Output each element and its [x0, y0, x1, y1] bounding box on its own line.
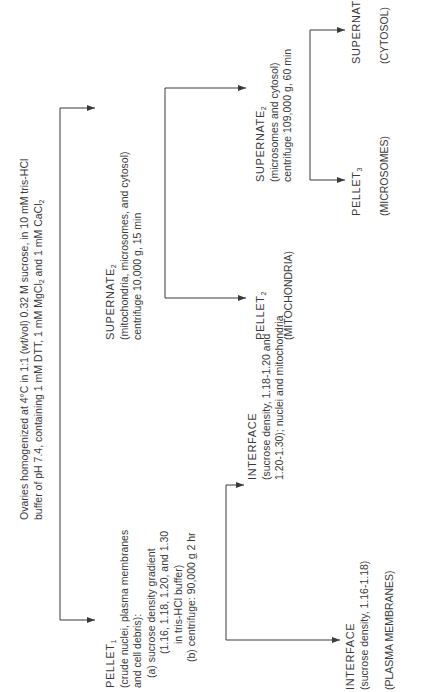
pellet1-step-a-3: in tris-HCl buffer)	[172, 530, 186, 688]
interface-lower-result: (PLASMA MEMBRANES)	[383, 561, 397, 690]
interface-lower-block: INTERFACE (sucrose density, 1.16-1.18) (…	[344, 561, 397, 690]
supernate3-result: (CYTOSOL)	[378, 0, 392, 64]
supernate2b-block: SUPERNATE2 (microsomes and cytosol) cent…	[254, 49, 295, 182]
pellet1-step-b: (b) centrifuge: 90,000 g 2 hr	[185, 530, 199, 688]
pellet1-label: PELLET1	[104, 530, 118, 688]
supernate2-block: SUPERNATE2 (mitochondria, microsomes, an…	[104, 152, 145, 340]
title-line-1: Ovaries homogenized at 4°C in 1:1 (wt/vo…	[18, 159, 32, 520]
homogenization-title: Ovaries homogenized at 4°C in 1:1 (wt/vo…	[18, 159, 45, 520]
interface-upper-desc-1: (sucrose density, 1.18-1.20 and	[260, 315, 274, 480]
title-line-2: buffer of pH 7.4, containing 1 mM DTT, 1…	[32, 159, 46, 520]
pellet3-block: PELLET3 (MICROSOMES)	[350, 136, 391, 216]
supernate2b-desc-2: centrifuge 109,000 g, 60 min	[281, 49, 295, 182]
supernate2-desc-1: (mitochondria, microsomes, and cytosol)	[118, 152, 132, 340]
pellet1-desc-2: and cell debris):	[131, 530, 145, 688]
supernate3-block: SUPERNATE3 (CYTOSOL)	[350, 0, 391, 64]
pellet1-step-a: (a) sucrose density gradient	[145, 530, 159, 688]
pellet1-desc-1: (crude nuclei, plasma membranes	[118, 530, 132, 688]
interface-upper-block: INTERFACE (sucrose density, 1.18-1.20 an…	[246, 315, 287, 480]
supernate2b-desc-1: (microsomes and cytosol)	[268, 49, 282, 182]
interface-upper-desc-2: 1.20-1.30); nuclei and mitochondria	[273, 315, 287, 480]
supernate3-label: SUPERNATE3	[350, 0, 364, 64]
supernate2-desc-2: centrifuge 10,000 g, 15 min	[131, 152, 145, 340]
interface-upper-label: INTERFACE	[246, 315, 260, 480]
pellet3-result: (MICROSOMES)	[378, 136, 392, 216]
supernate2b-label: SUPERNATE2	[254, 49, 268, 182]
pellet1-step-a-2: (1.16, 1.18, 1.20, and 1.30	[158, 530, 172, 688]
fractionation-flowchart: Ovaries homogenized at 4°C in 1:1 (wt/vo…	[0, 0, 422, 692]
supernate2-label: SUPERNATE2	[104, 152, 118, 340]
interface-lower-label: INTERFACE	[344, 561, 358, 690]
pellet1-block: PELLET1 (crude nuclei, plasma membranes …	[104, 530, 199, 688]
pellet2-block: PELLET2 (MITOCHONDRIA)	[254, 251, 295, 340]
interface-lower-desc-1: (sucrose density, 1.16-1.18)	[358, 561, 372, 690]
pellet3-label: PELLET3	[350, 136, 364, 216]
pellet2-label: PELLET2	[254, 251, 268, 340]
pellet2-result: (MITOCHONDRIA)	[282, 251, 296, 340]
